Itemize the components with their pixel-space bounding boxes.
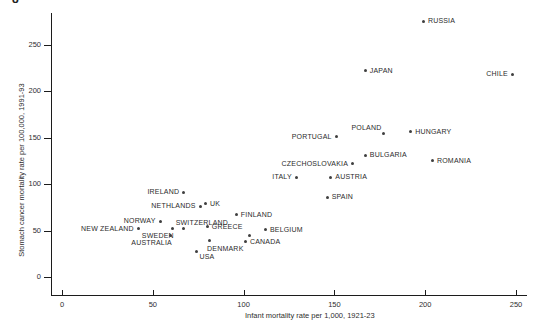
- x-axis-tick: [153, 290, 154, 296]
- point-label: CZECHOSLOVAKIA: [282, 160, 348, 168]
- point-label: BULGARIA: [370, 151, 407, 159]
- scatter-chart: 8 050100150200250050100150200250 RUSSIAJ…: [0, 0, 534, 332]
- y-tick-label: 0: [11, 273, 41, 281]
- point-label: UK: [210, 200, 220, 208]
- y-axis-tick: [44, 138, 52, 139]
- data-point: [244, 240, 247, 243]
- point-label: CHILE: [486, 70, 508, 78]
- x-tick-label: 250: [501, 300, 531, 309]
- data-point: [248, 234, 251, 237]
- x-tick-label: 0: [47, 300, 77, 309]
- data-point: [208, 239, 211, 242]
- y-axis-line: [51, 13, 52, 296]
- data-point: [206, 225, 209, 228]
- x-axis-tick: [425, 290, 426, 296]
- x-axis-tick: [334, 290, 335, 296]
- data-point: [364, 154, 367, 157]
- point-label: HUNGARY: [415, 128, 451, 136]
- x-axis-tick: [516, 290, 517, 296]
- point-label: RUSSIA: [428, 17, 455, 25]
- data-point: [235, 213, 238, 216]
- x-axis-tick: [62, 290, 63, 296]
- data-point: [431, 159, 434, 162]
- data-point: [329, 176, 332, 179]
- y-axis-tick: [44, 45, 52, 46]
- point-label: NETHLANDS: [151, 202, 195, 210]
- data-point: [335, 135, 338, 138]
- data-point: [182, 191, 185, 194]
- y-tick-label: 50: [11, 227, 41, 235]
- data-point: [364, 69, 367, 72]
- point-label: ITALY: [272, 173, 291, 181]
- point-label: AUSTRALIA: [131, 239, 172, 247]
- data-point: [182, 227, 185, 230]
- data-point: [295, 176, 298, 179]
- x-tick-label: 50: [138, 300, 168, 309]
- y-axis-tick: [44, 184, 52, 185]
- point-label: POLAND: [351, 124, 381, 132]
- data-point: [264, 228, 267, 231]
- point-label: SPAIN: [332, 193, 354, 201]
- data-point: [382, 132, 385, 135]
- data-point: [409, 130, 412, 133]
- x-tick-label: 100: [229, 300, 259, 309]
- y-axis-tick: [44, 231, 52, 232]
- point-label: BELGIUM: [270, 226, 303, 234]
- point-label: GREECE: [212, 223, 243, 231]
- x-tick-label: 150: [319, 300, 349, 309]
- y-axis-tick: [44, 277, 52, 278]
- y-tick-label: 200: [11, 87, 41, 95]
- x-axis-title: Infant mortality rate per 1,000, 1921-23: [245, 311, 375, 320]
- data-point: [199, 205, 202, 208]
- point-label: IRELAND: [147, 188, 179, 196]
- point-label: DENMARK: [207, 245, 243, 253]
- y-tick-label: 250: [11, 41, 41, 49]
- point-label: CANADA: [250, 238, 280, 246]
- y-tick-label: 100: [11, 180, 41, 188]
- data-point: [511, 73, 514, 76]
- data-point: [422, 20, 425, 23]
- point-label: ROMANIA: [437, 157, 471, 165]
- data-point: [326, 196, 329, 199]
- x-tick-label: 200: [410, 300, 440, 309]
- point-label: NEW ZEALAND: [81, 225, 134, 233]
- point-label: PORTUGAL: [292, 133, 332, 141]
- data-point: [204, 202, 207, 205]
- y-axis-title: Stomach cancer mortality rate per 100,00…: [17, 70, 26, 270]
- x-axis-tick: [244, 290, 245, 296]
- y-axis-tick: [44, 91, 52, 92]
- point-label: AUSTRIA: [335, 173, 367, 181]
- data-point: [137, 227, 140, 230]
- data-point: [195, 250, 198, 253]
- y-tick-label: 150: [11, 134, 41, 142]
- x-axis-line: [51, 295, 527, 296]
- point-label: FINLAND: [241, 211, 272, 219]
- point-label: JAPAN: [370, 67, 393, 75]
- point-label: USA: [199, 253, 214, 261]
- data-point: [159, 220, 162, 223]
- figure-number: 8: [12, 0, 19, 6]
- data-point: [351, 162, 354, 165]
- data-point: [171, 227, 174, 230]
